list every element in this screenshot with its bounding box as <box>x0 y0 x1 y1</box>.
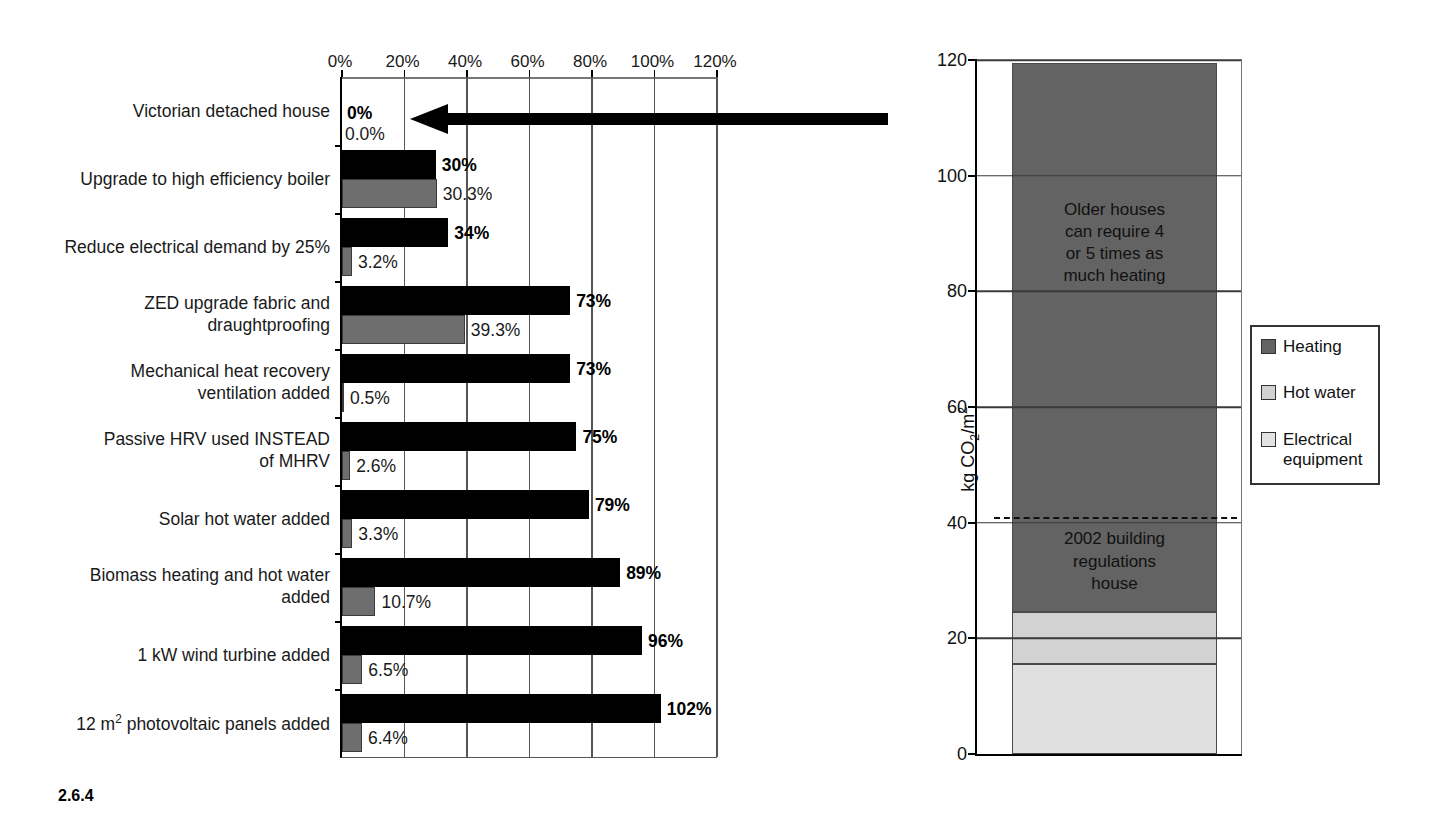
y-axis-tick-mark <box>335 553 342 555</box>
y-axis-tick-mark <box>335 417 342 419</box>
bar-value-label-primary: 0% <box>347 103 372 124</box>
y-axis-tick-mark <box>968 59 977 61</box>
bar-value-label-secondary: 0.0% <box>345 124 385 145</box>
y-axis-tick-mark <box>335 145 342 147</box>
y-axis-tick-mark <box>968 522 977 524</box>
legend-swatch <box>1261 432 1276 447</box>
x-axis-tick-mark <box>654 70 656 77</box>
bar-value-label-secondary: 3.2% <box>358 252 398 273</box>
gridline <box>977 291 1242 293</box>
bar-value-label-secondary: 10.7% <box>381 592 431 613</box>
bar-value-label-primary: 73% <box>576 359 611 380</box>
category-label: ZED upgrade fabric anddraughtproofing <box>40 292 330 337</box>
bar-value-label-primary: 73% <box>576 291 611 312</box>
bar-primary <box>342 354 570 383</box>
x-axis-tick-mark <box>529 70 531 77</box>
bar-secondary <box>342 451 350 480</box>
x-axis-tick-label: 100% <box>631 52 674 72</box>
bar-secondary <box>342 587 375 616</box>
bar-row: Passive HRV used INSTEADof MHRV75%2.6% <box>342 417 717 485</box>
bar-primary <box>342 422 576 451</box>
bar-secondary <box>342 723 362 752</box>
legend: HeatingHot waterElectricalequipment <box>1250 325 1380 485</box>
annotation-2002-regs: 2002 buildingregulationshouse <box>1012 528 1217 594</box>
bar-secondary <box>342 519 352 548</box>
x-axis-tick-label: 0% <box>328 52 353 72</box>
x-axis-tick-label: 20% <box>385 52 419 72</box>
bar-secondary <box>342 655 362 684</box>
bar-secondary <box>342 247 352 276</box>
bar-primary <box>342 150 436 179</box>
y-axis-tick-mark <box>968 637 977 639</box>
bar-value-label-secondary: 30.3% <box>443 184 493 205</box>
annotation-older-houses: Older housescan require 4or 5 times asmu… <box>1012 199 1217 287</box>
bar-value-label-secondary: 2.6% <box>356 456 396 477</box>
bar-value-label-secondary: 39.3% <box>471 320 521 341</box>
category-label: 12 m2 photovoltaic panels added <box>40 712 330 735</box>
gridline <box>977 59 1242 61</box>
y-axis-tick-mark <box>968 753 977 755</box>
bar-value-label-primary: 79% <box>595 495 630 516</box>
y-axis-tick-mark <box>335 621 342 623</box>
bar-value-label-secondary: 0.5% <box>350 388 390 409</box>
category-label: Upgrade to high efficiency boiler <box>40 168 330 190</box>
category-label: Mechanical heat recoveryventilation adde… <box>40 360 330 405</box>
y-axis-tick-mark <box>968 175 977 177</box>
bar-primary <box>342 626 642 655</box>
y-axis-tick-mark <box>968 406 977 408</box>
legend-label: Hot water <box>1283 383 1356 403</box>
x-axis-tick-label: 120% <box>693 52 736 72</box>
figure-2-6-4: 0%20%40%60%80%100%120% Victorian detache… <box>0 0 1439 818</box>
x-axis-tick-mark <box>341 70 343 77</box>
category-label: Passive HRV used INSTEADof MHRV <box>40 428 330 473</box>
gridline <box>977 638 1242 640</box>
y-axis-tick-mark <box>335 213 342 215</box>
legend-item[interactable]: Electricalequipment <box>1261 430 1369 471</box>
legend-label: Heating <box>1283 337 1342 357</box>
bar-value-label-primary: 96% <box>648 631 683 652</box>
y-axis-tick-mark <box>335 689 342 691</box>
bar-value-label-secondary: 3.3% <box>358 524 398 545</box>
bar-row: Mechanical heat recoveryventilation adde… <box>342 349 717 417</box>
x-axis-tick-label: 60% <box>510 52 544 72</box>
figure-caption: 2.6.4 <box>58 787 94 805</box>
right-plot-area: kg CO2/m2 Older housescan require 4or 5 … <box>975 60 1242 756</box>
y-axis-title: kg CO2/m2 <box>956 407 982 492</box>
y-axis-tick-label: 60 <box>947 397 967 418</box>
x-axis-tick-mark <box>404 70 406 77</box>
bar-primary <box>342 218 448 247</box>
y-axis-tick-mark <box>335 349 342 351</box>
bar-secondary <box>342 383 344 412</box>
y-axis-tick-label: 40 <box>947 512 967 533</box>
y-axis-tick-label: 120 <box>937 50 967 71</box>
bar-value-label-secondary: 6.5% <box>368 660 408 681</box>
bar-primary <box>342 286 570 315</box>
category-label: Reduce electrical demand by 25% <box>40 236 330 258</box>
category-label: Solar hot water added <box>40 508 330 530</box>
legend-label: Electricalequipment <box>1283 430 1362 471</box>
bar-primary <box>342 694 661 723</box>
bar-value-label-primary: 34% <box>454 223 489 244</box>
bar-value-label-primary: 30% <box>442 155 477 176</box>
y-axis-tick-mark <box>335 281 342 283</box>
y-axis-tick-mark <box>335 485 342 487</box>
bar-value-label-primary: 89% <box>626 563 661 584</box>
gridline <box>977 175 1242 177</box>
threshold-line <box>994 517 1237 519</box>
y-axis-tick-label: 100 <box>937 165 967 186</box>
legend-item[interactable]: Hot water <box>1261 383 1369 403</box>
bar-primary <box>342 490 589 519</box>
x-axis-tick-label: 40% <box>448 52 482 72</box>
category-label: 1 kW wind turbine added <box>40 644 330 666</box>
bar-row: Upgrade to high efficiency boiler30%30.3… <box>342 145 717 213</box>
x-axis-tick-mark <box>591 70 593 77</box>
gridline <box>977 522 1242 524</box>
legend-item[interactable]: Heating <box>1261 337 1369 357</box>
category-label: Victorian detached house <box>40 100 330 122</box>
gridline <box>977 406 1242 408</box>
bar-row: Biomass heating and hot wateradded89%10.… <box>342 553 717 621</box>
left-plot-area: Victorian detached houseUpgrade to high … <box>340 77 717 758</box>
x-axis-tick-mark <box>466 70 468 77</box>
co2-emissions-chart: kg CO2/m2 Older housescan require 4or 5 … <box>900 0 1439 790</box>
x-axis-tick-mark <box>716 70 718 77</box>
